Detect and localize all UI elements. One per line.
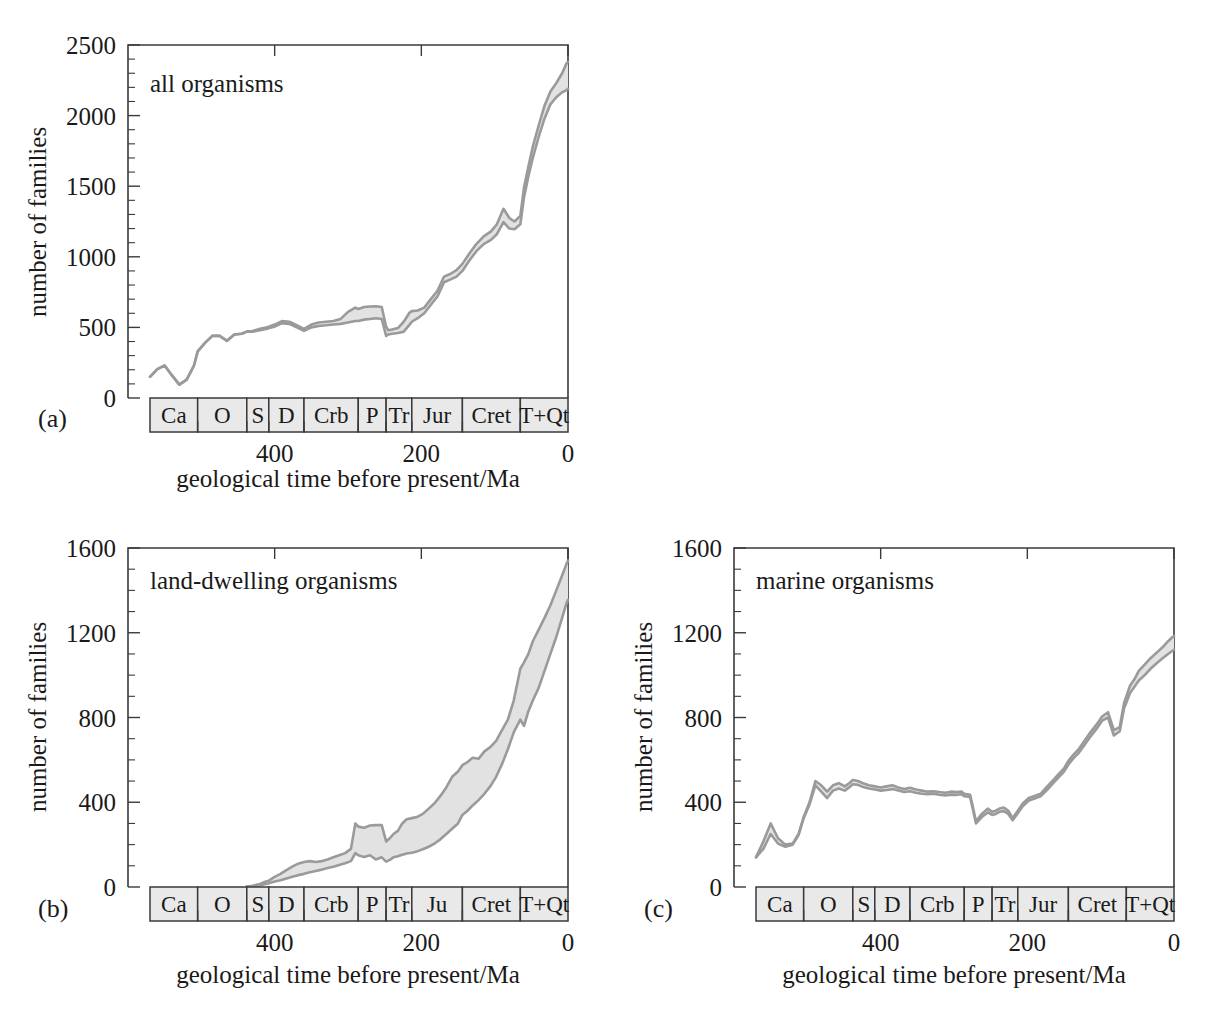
period-bar-c: CaOSDCrbPTrJurCretT+Qt <box>756 887 1176 921</box>
period-label: D <box>278 403 295 428</box>
period-label: D <box>884 892 901 917</box>
x-axis-title: geological time before present/Ma <box>176 465 520 492</box>
curve-lower-c <box>756 650 1174 858</box>
period-label: Ca <box>767 892 793 917</box>
y-tick-label: 500 <box>79 314 117 341</box>
period-label: S <box>251 403 264 428</box>
period-label: Cret <box>472 403 512 428</box>
period-label: Tr <box>389 403 410 428</box>
x-tick-label: 200 <box>1009 929 1047 956</box>
x-tick-label: 400 <box>862 929 900 956</box>
period-label: T+Qt <box>1125 892 1176 917</box>
period-label: S <box>251 892 264 917</box>
y-tick-label: 400 <box>79 789 117 816</box>
period-label: O <box>820 892 837 917</box>
y-tick-label: 0 <box>104 874 117 901</box>
period-label: Jur <box>423 403 451 428</box>
panel-caption-a: (a) <box>38 404 67 433</box>
curve-lower-a <box>150 89 568 385</box>
period-label: T+Qt <box>519 892 570 917</box>
y-tick-label: 0 <box>104 385 117 412</box>
period-label: P <box>972 892 985 917</box>
period-label: Ju <box>427 892 448 917</box>
x-tick-label: 400 <box>256 440 294 467</box>
period-label: Crb <box>920 892 955 917</box>
x-tick-label: 400 <box>256 929 294 956</box>
y-axis-title: number of families <box>24 127 51 317</box>
period-label: Crb <box>314 403 349 428</box>
period-label: O <box>214 403 231 428</box>
y-axis-a: 05001000150020002500 <box>66 32 140 412</box>
period-label: Jur <box>1029 892 1057 917</box>
period-label: D <box>278 892 295 917</box>
x-tick-label: 200 <box>403 440 441 467</box>
y-tick-label: 0 <box>710 874 723 901</box>
period-label: P <box>366 892 379 917</box>
period-label: P <box>366 403 379 428</box>
panel-title-a: all organisms <box>150 70 284 97</box>
period-label: Tr <box>995 892 1016 917</box>
chart-svg-c: 0400800120016004002000CaOSDCrbPTrJurCret… <box>612 505 1226 1030</box>
y-tick-label: 1600 <box>672 535 722 562</box>
period-label: Cret <box>1078 892 1118 917</box>
y-tick-label: 1500 <box>66 173 116 200</box>
y-axis-c: 040080012001600 <box>672 535 746 901</box>
chart-svg-a: 050010001500200025004002000CaOSDCrbPTrJu… <box>0 0 620 500</box>
x-axis-title: geological time before present/Ma <box>782 961 1126 988</box>
uncertainty-band-b <box>247 561 568 887</box>
y-tick-label: 1200 <box>672 620 722 647</box>
y-axis-title: number of families <box>24 622 51 812</box>
period-bar-b: CaOSDCrbPTrJuCretT+Qt <box>150 887 570 921</box>
x-tick-label: 0 <box>1168 929 1181 956</box>
panel-title-b: land-dwelling organisms <box>150 567 397 594</box>
chart-panel-a: 050010001500200025004002000CaOSDCrbPTrJu… <box>0 0 620 500</box>
period-label: Ca <box>161 403 187 428</box>
chart-svg-b: 0400800120016004002000CaOSDCrbPTrJuCretT… <box>0 505 620 1030</box>
y-tick-label: 1000 <box>66 244 116 271</box>
y-tick-label: 800 <box>79 705 117 732</box>
chart-panel-b: 0400800120016004002000CaOSDCrbPTrJuCretT… <box>0 505 620 1030</box>
y-tick-label: 1200 <box>66 620 116 647</box>
chart-panel-c: 0400800120016004002000CaOSDCrbPTrJurCret… <box>612 505 1226 1030</box>
x-tick-label: 200 <box>403 929 441 956</box>
y-tick-label: 1600 <box>66 535 116 562</box>
period-label: S <box>857 892 870 917</box>
y-tick-label: 2500 <box>66 32 116 59</box>
y-tick-label: 400 <box>685 789 723 816</box>
panel-caption-c: (c) <box>644 894 673 923</box>
y-axis-b: 040080012001600 <box>66 535 140 901</box>
uncertainty-band-c <box>756 636 1174 857</box>
panel-title-c: marine organisms <box>756 567 934 594</box>
panel-caption-b: (b) <box>38 894 68 923</box>
plot-frame-b <box>128 548 568 887</box>
x-tick-label: 0 <box>562 929 575 956</box>
period-label: Crb <box>314 892 349 917</box>
period-bar-a: CaOSDCrbPTrJurCretT+Qt <box>150 398 570 432</box>
x-axis-title: geological time before present/Ma <box>176 961 520 988</box>
period-label: Cret <box>472 892 512 917</box>
period-label: Tr <box>389 892 410 917</box>
period-label: T+Qt <box>519 403 570 428</box>
period-label: Ca <box>161 892 187 917</box>
x-tick-label: 0 <box>562 440 575 467</box>
curve-upper-c <box>756 636 1174 857</box>
y-tick-label: 800 <box>685 705 723 732</box>
period-label: O <box>214 892 231 917</box>
y-axis-title: number of families <box>630 622 657 812</box>
y-tick-label: 2000 <box>66 103 116 130</box>
